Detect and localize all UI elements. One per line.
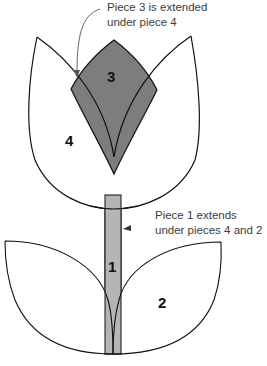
- piece-2-right-leaf: [114, 242, 221, 354]
- tulip-diagram: 3 4 1 2: [0, 0, 267, 366]
- piece-2-left-leaf: [5, 241, 113, 354]
- piece-1-number: 1: [108, 258, 116, 275]
- piece-3-callout-line1: Piece 3 is extended: [107, 0, 207, 15]
- piece-4-number: 4: [65, 132, 74, 149]
- piece-2-number: 2: [158, 294, 166, 311]
- piece-3-callout-line2: under piece 4: [107, 15, 207, 30]
- piece-3-callout: Piece 3 is extended under piece 4: [107, 0, 207, 30]
- pointer-triangle-icon: [123, 225, 131, 231]
- piece-1-callout-line1: Piece 1 extends: [155, 208, 262, 223]
- piece-1-callout: Piece 1 extends under pieces 4 and 2: [155, 208, 262, 238]
- piece-1-callout-line2: under pieces 4 and 2: [155, 223, 262, 238]
- piece-3-number: 3: [107, 68, 115, 85]
